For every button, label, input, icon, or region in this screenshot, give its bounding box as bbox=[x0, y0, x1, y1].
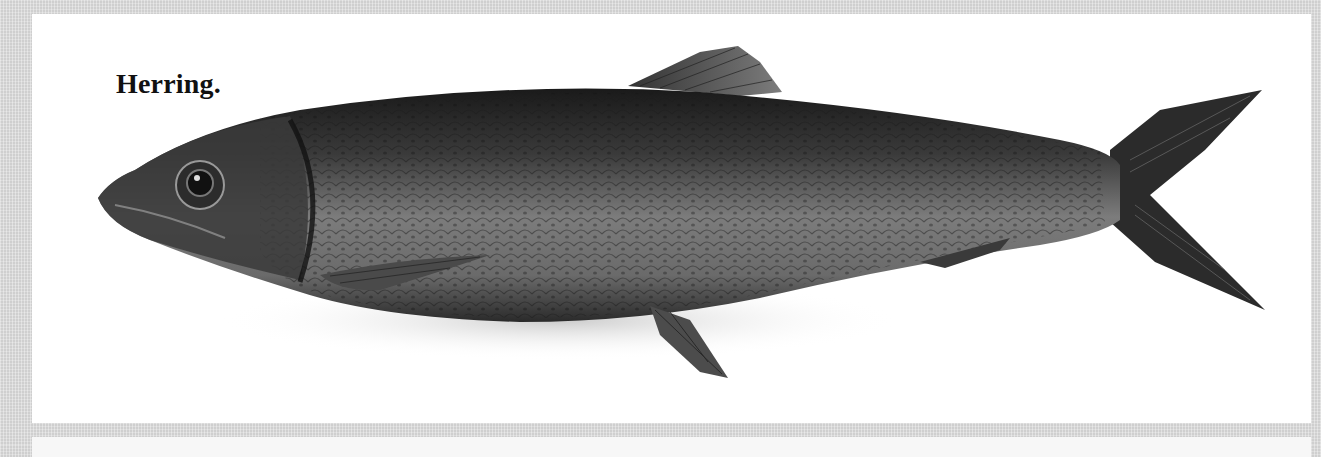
tail-fin bbox=[1110, 90, 1265, 310]
fish-eye bbox=[176, 161, 224, 209]
